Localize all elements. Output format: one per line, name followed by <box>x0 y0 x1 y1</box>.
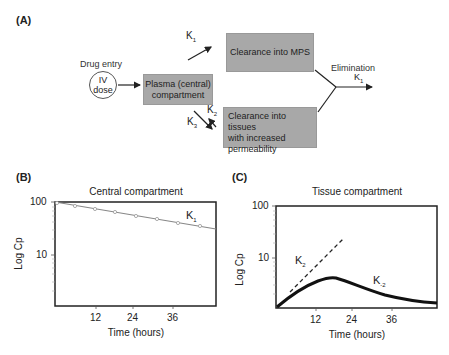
panel-c-k-minus2-curve <box>277 278 437 307</box>
panel-c-k2-dashed-line <box>290 238 344 292</box>
panel-c-frame <box>276 206 437 308</box>
panel-c-plot <box>0 0 449 355</box>
